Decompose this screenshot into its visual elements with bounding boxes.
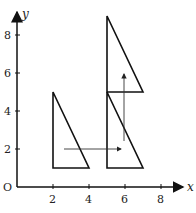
x-axis-label: x bbox=[187, 180, 194, 194]
y-tick-label-4: 4 bbox=[4, 105, 11, 118]
y-tick-label-6: 6 bbox=[4, 67, 11, 80]
origin-label: O bbox=[3, 181, 12, 194]
x-tick-label-8: 8 bbox=[157, 193, 164, 206]
y-tick-label-2: 2 bbox=[4, 143, 11, 156]
y-tick-label-8: 8 bbox=[4, 29, 11, 42]
x-tick-label-6: 6 bbox=[121, 193, 128, 206]
translated-up-triangle bbox=[107, 16, 143, 92]
x-tick-label-4: 4 bbox=[85, 193, 92, 206]
x-tick-label-2: 2 bbox=[49, 193, 56, 206]
y-axis-label: y bbox=[21, 7, 29, 21]
original-triangle bbox=[53, 92, 89, 168]
translated-right-triangle bbox=[107, 92, 143, 168]
coordinate-diagram: O x y 2 4 6 8 2 4 6 8 bbox=[0, 0, 196, 213]
